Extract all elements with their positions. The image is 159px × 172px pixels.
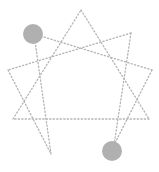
edge-bottom-right-to-upper-right <box>114 33 131 145</box>
edge-top-to-lower-right <box>81 10 149 119</box>
edge-upper-left-to-right <box>34 34 152 70</box>
edge-lower-left-to-top <box>13 10 81 119</box>
node-marker-bottom-right <box>102 141 122 161</box>
markers-group <box>23 24 122 161</box>
enneagram-diagram <box>0 0 159 172</box>
node-marker-upper-left <box>23 24 43 44</box>
